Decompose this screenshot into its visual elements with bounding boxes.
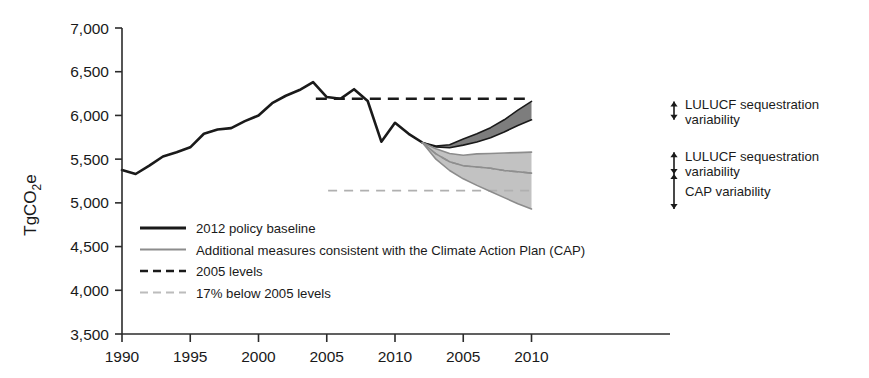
lulucf-cap-annotation: LULUCF sequestrationvariability [670,149,819,179]
legend: 2012 policy baselineAdditional measures … [140,221,585,301]
legend-label-1: Additional measures consistent with the … [196,243,585,258]
y-tick-label: 3,500 [70,326,109,343]
lulucf-baseline-annotation: LULUCF sequestrationvariability [670,97,819,127]
chart-canvas: 3,5004,0004,5005,0005,5006,0006,5007,000… [0,0,869,378]
series-layer [122,82,532,209]
x-tick-label: 2000 [241,348,276,365]
x-tick-label: 2005 [446,348,480,365]
y-tick-label: 7,000 [70,20,109,37]
y-tick-label: 5,500 [70,151,109,168]
lulucf-baseline-annotation-label: LULUCF sequestrationvariability [685,97,819,127]
y-tick-label: 6,500 [70,63,109,80]
y-tick-label: 4,500 [70,238,109,255]
legend-item-0[interactable]: 2012 policy baseline [140,221,316,236]
y-tick-label: 6,000 [70,107,109,124]
band-lulucf-baseline [422,101,531,147]
y-tick-label: 4,000 [70,282,109,299]
y-axis-ticks: 3,5004,0004,5005,0005,5006,0006,5007,000 [70,20,122,343]
emissions-projection-figure: 3,5004,0004,5005,0005,5006,0006,5007,000… [0,0,869,378]
legend-item-3[interactable]: 17% below 2005 levels [140,286,331,301]
legend-label-0: 2012 policy baseline [196,221,316,236]
lulucf-cap-annotation-label: LULUCF sequestrationvariability [685,149,819,179]
legend-item-1[interactable]: Additional measures consistent with the … [140,243,585,258]
series-line-0 [122,82,422,174]
legend-label-3: 17% below 2005 levels [196,286,331,301]
legend-label-2: 2005 levels [196,264,263,279]
y-tick-label: 5,000 [70,194,109,211]
y-axis-label: TgCO2e [21,174,44,236]
x-tick-label: 2010 [514,348,549,365]
x-tick-label: 1995 [173,348,207,365]
cap-variability-annotation-label: CAP variability [685,184,771,199]
legend-item-2[interactable]: 2005 levels [140,264,263,279]
cap-variability-annotation: CAP variability [670,174,771,209]
x-tick-label: 1990 [105,348,140,365]
annotations-layer: LULUCF sequestrationvariabilityLULUCF se… [670,97,819,209]
x-tick-label: 2005 [310,348,344,365]
x-axis-ticks: 1990199520002005201020052010 [105,334,549,365]
x-tick-label: 2010 [378,348,413,365]
